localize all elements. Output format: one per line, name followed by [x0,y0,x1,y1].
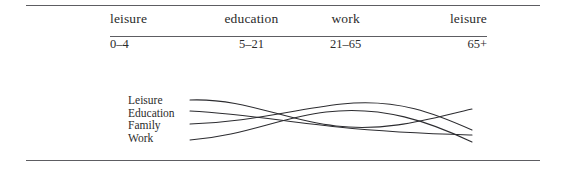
life-stage-figure: leisure 0–4 education 5–21 work 21–65 le… [0,0,566,173]
stage-age-range: 5–21 [239,37,264,52]
legend-label-family: Family [128,119,186,132]
life-course-curves [186,92,476,158]
bottom-rule [26,160,540,161]
stage-name: leisure [110,11,147,27]
curve-legend: Leisure Education Family Work [128,94,186,144]
curve-education [190,111,472,135]
header-rule [110,36,487,37]
stage-column-2: education 5–21 [204,11,298,52]
stage-table: leisure 0–4 education 5–21 work 21–65 le… [110,11,487,52]
stage-name: education [224,11,278,27]
top-rule [26,5,540,6]
stage-age-range: 0–4 [110,37,129,52]
legend-label-work: Work [128,132,186,145]
stage-column-1: leisure 0–4 [110,11,204,52]
stage-column-4: leisure 65+ [393,11,487,52]
stage-age-range: 21–65 [330,37,361,52]
stage-age-range: 65+ [467,37,487,52]
stage-name: work [331,11,359,27]
stage-name: leisure [450,11,487,27]
stage-column-3: work 21–65 [299,11,393,52]
legend-label-education: Education [128,107,186,120]
legend-label-leisure: Leisure [128,94,186,107]
